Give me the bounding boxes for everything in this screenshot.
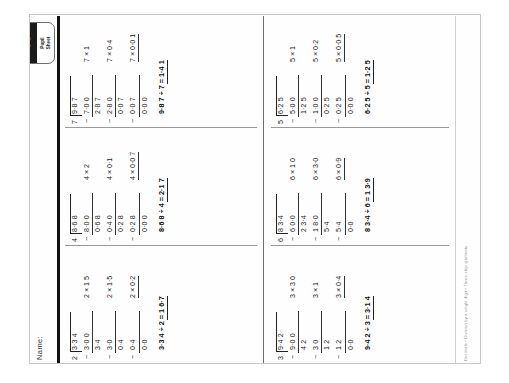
working-step-row: 0·4	[117, 333, 129, 350]
step-underline	[345, 311, 346, 353]
partial-product-note: 4 × 0·1	[106, 158, 114, 180]
step-underline	[115, 193, 116, 235]
dividend: 8·6 8	[71, 215, 79, 232]
minus-sign: −	[335, 355, 343, 359]
vinculum	[276, 312, 277, 352]
answer-underline	[373, 60, 374, 84]
working-step-row: 0·0 0	[141, 97, 153, 114]
dividend-row: 56·2 5	[277, 97, 289, 114]
answer-underline	[167, 296, 168, 320]
minus-sign: −	[289, 355, 297, 359]
step-underline	[92, 193, 93, 235]
partial-product-note: 2 × 1 5	[83, 276, 91, 298]
minus-sign: −	[83, 237, 91, 241]
working-step-row: −0·4 0	[106, 215, 118, 232]
step-underline	[345, 193, 346, 235]
step-underline	[115, 311, 116, 353]
working-step-row: −1·0 0	[312, 97, 324, 114]
step-underline	[139, 311, 140, 353]
division-problem: 5 × 15 × 0·25 × 0·0 556·2 5−5·0 01·2 5−1…	[273, 14, 463, 128]
step-value: 3·0 0	[83, 333, 91, 350]
partial-product-note: 6 × 1 0	[289, 158, 297, 180]
working-step-row: −3 0	[312, 333, 324, 350]
partial-product-note: 4 × 0·0 7	[129, 152, 137, 180]
step-value: 5·4	[323, 221, 331, 232]
step-value: 2 3·4	[300, 215, 308, 232]
step-value: 0·4	[117, 339, 125, 350]
division-problem: 2 × 1 52 × 1·52 × 0·223·3 4−3·0 03·4−3·0…	[67, 246, 257, 364]
partial-product-note: 7 × 0·4	[106, 40, 114, 62]
step-value: 0·0	[347, 221, 355, 232]
division-bracket	[70, 351, 82, 352]
working-step-row: −3·0 0	[83, 333, 95, 350]
minus-sign: −	[83, 119, 91, 123]
step-underline	[321, 311, 322, 353]
partial-product-note: 3 × 3 0	[289, 276, 297, 298]
partial-product-note: 2 × 0·2	[129, 276, 137, 298]
division-bracket	[70, 233, 82, 234]
long-division-working: 23·3 4−3·0 03·4−3·00·4−0·40·0	[71, 333, 152, 350]
minus-sign: −	[289, 237, 297, 241]
step-underline	[92, 75, 93, 117]
working-step-row: −3·0	[106, 333, 118, 350]
answer-line: 8·6 8 ÷ 4 = 2·1 7	[157, 178, 166, 232]
minus-sign: −	[83, 355, 91, 359]
step-value: 6 0·0	[289, 215, 297, 232]
divisor: 4	[71, 238, 79, 242]
dividend: 8 3·4	[277, 215, 285, 232]
step-value: 9·0 0	[289, 333, 297, 350]
minus-sign: −	[312, 355, 320, 359]
working-step-row: 0·6 8	[94, 215, 106, 232]
partial-product-underline	[138, 152, 139, 180]
division-bracket	[276, 115, 288, 116]
step-value: 0·6 8	[94, 215, 102, 232]
partial-product-underline	[344, 158, 345, 180]
minus-sign: −	[106, 119, 114, 123]
partial-product-underline	[138, 34, 139, 62]
partial-product-note: 4 × 2	[83, 164, 91, 180]
answer-underline	[167, 60, 168, 84]
badge-caption-line2: Sheet	[46, 37, 51, 50]
working-step-row: −7·0 0	[83, 97, 95, 114]
working-step-row: −6 0·0	[289, 215, 301, 232]
step-value: 0·0 0	[141, 215, 149, 232]
working-step-row: 0·0	[347, 333, 359, 350]
step-value: 0·2 5	[323, 97, 331, 114]
working-step-row: −0·2 5	[335, 97, 347, 114]
long-division-working: 39·4 2−9·0 04 2−3 01 2−1 20·0	[277, 333, 358, 350]
working-step-row: −5·4	[335, 215, 347, 232]
division-problem: 7 × 17 × 0·47 × 0·0 179·8 7−7·0 02·8 7−2…	[67, 14, 257, 128]
vinculum	[276, 194, 277, 234]
answer-line: 8 3·4 ÷ 6 = 1 3·9	[363, 178, 372, 232]
step-value: 8·0 0	[83, 215, 91, 232]
step-value: 5·0 0	[289, 97, 297, 114]
dividend-row: 79·8 7	[71, 97, 83, 114]
step-underline	[321, 75, 322, 117]
step-underline	[321, 193, 322, 235]
step-value: 3 0	[312, 340, 320, 350]
working-step-row: 4 2	[300, 333, 312, 350]
step-value: 1·0 0	[312, 97, 320, 114]
dividend: 3·3 4	[71, 333, 79, 350]
working-step-row: −9·0 0	[289, 333, 301, 350]
division-bracket	[276, 233, 288, 234]
step-value: 0·2 8	[117, 215, 125, 232]
partial-product-note: 3 × 1	[312, 282, 320, 298]
partial-product-underline	[138, 276, 139, 298]
partial-product-note: 3 × 0·4	[335, 276, 343, 298]
working-step-row: −0·2 8	[129, 215, 141, 232]
divisor: 5	[277, 120, 285, 124]
dividend: 9·4 2	[277, 333, 285, 350]
step-underline	[298, 193, 299, 235]
minus-sign: −	[129, 119, 137, 123]
dividend-row: 68 3·4	[277, 215, 289, 232]
working-step-row: −0·4	[129, 333, 141, 350]
division-bracket	[70, 115, 82, 116]
step-underline	[345, 75, 346, 117]
step-underline	[115, 75, 116, 117]
working-step-row: −1 8·0	[312, 215, 324, 232]
minus-sign: −	[129, 237, 137, 241]
step-underline	[298, 311, 299, 353]
working-step-row: 2 3·4	[300, 215, 312, 232]
division-problem: 3 × 3 03 × 13 × 0·439·4 2−9·0 04 2−3 01 …	[273, 246, 463, 364]
